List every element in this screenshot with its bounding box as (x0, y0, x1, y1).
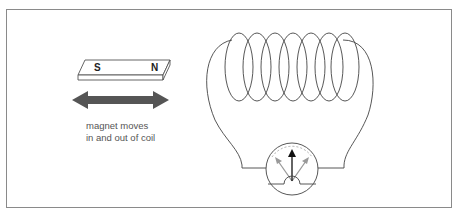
magnet-north-label: N (151, 62, 158, 73)
coil (225, 33, 359, 101)
magnet-south-label: S (94, 62, 101, 73)
galvanometer-icon (266, 143, 318, 195)
magnet-caption: magnet moves in and out of coil (86, 120, 155, 144)
caption-line-1: magnet moves (86, 120, 155, 132)
caption-line-2: in and out of coil (86, 132, 155, 144)
diagram-canvas (0, 0, 462, 215)
double-arrow-icon (72, 91, 169, 109)
